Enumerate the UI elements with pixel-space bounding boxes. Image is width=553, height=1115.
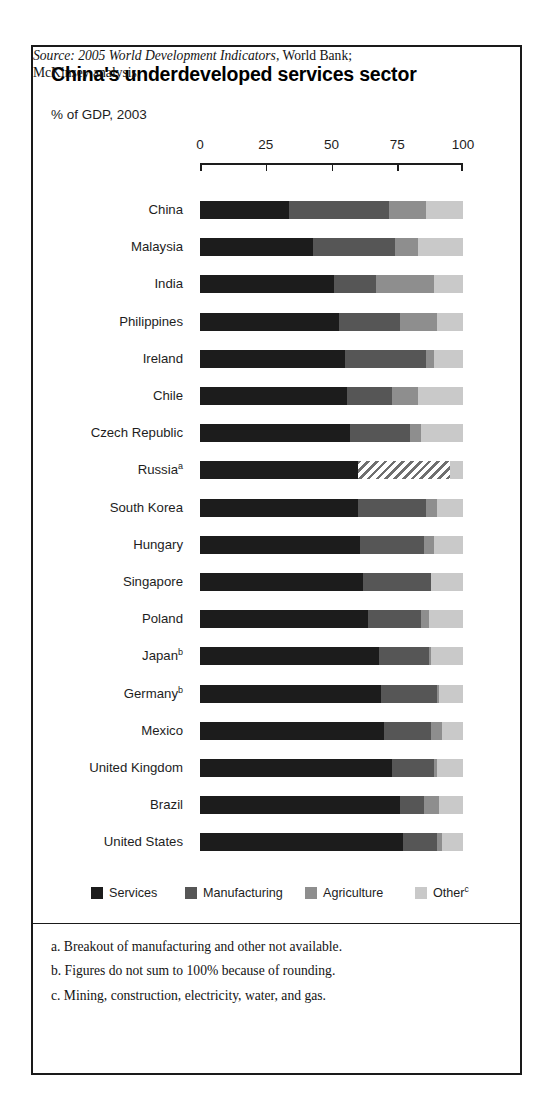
bar-row: Malaysia — [33, 236, 520, 258]
bar-segment-manufacturing — [358, 499, 426, 517]
bar-row-label-russia: Russiaa — [33, 459, 183, 481]
legend-swatch-agriculture — [305, 887, 317, 899]
bar-row: Russiaa — [33, 459, 520, 481]
bar-segment-agriculture — [424, 796, 440, 814]
legend-label-other: Otherc — [433, 885, 469, 901]
bar-segment-other — [434, 536, 463, 554]
bar-row: Brazil — [33, 794, 520, 816]
stacked-bar — [200, 573, 463, 591]
bar-row: South Korea — [33, 497, 520, 519]
bar-row: United Kingdom — [33, 757, 520, 779]
bar-row-label-china: China — [33, 199, 183, 221]
stacked-bar — [200, 833, 463, 851]
x-axis-tick-25 — [266, 163, 268, 171]
x-axis-tick-labels: 0255075100 — [200, 137, 463, 155]
stacked-bar — [200, 387, 463, 405]
source-label: Source: 2005 World Development Indicator… — [33, 48, 276, 63]
bar-row: Ireland — [33, 348, 520, 370]
bar-segment-other — [421, 424, 463, 442]
x-axis-tick-label-75: 75 — [390, 137, 405, 152]
stacked-bar — [200, 201, 463, 219]
bar-row-label-ireland: Ireland — [33, 348, 183, 370]
bar-row-label-japan: Japanb — [33, 645, 183, 667]
bar-row: Poland — [33, 608, 520, 630]
bar-segment-manufacturing — [368, 610, 421, 628]
bar-segment-agriculture — [400, 313, 437, 331]
bar-row-label-hungary: Hungary — [33, 534, 183, 556]
legend-swatch-other — [415, 887, 427, 899]
stacked-bar — [200, 461, 463, 479]
bar-segment-manufacturing — [313, 238, 395, 256]
bar-segment-services — [200, 313, 339, 331]
bar-segment-other — [426, 201, 463, 219]
bar-segment-services — [200, 833, 403, 851]
bar-segment-agriculture — [431, 722, 442, 740]
bar-row-label-malaysia: Malaysia — [33, 236, 183, 258]
bar-segment-manufacturing — [289, 201, 389, 219]
bar-segment-manufacturing — [384, 722, 431, 740]
source-note: Source: 2005 World Development Indicator… — [33, 47, 483, 81]
bar-segment-manufacturing — [339, 313, 399, 331]
bar-row-label-mexico: Mexico — [33, 720, 183, 742]
bar-row: Philippines — [33, 311, 520, 333]
bar-row: Singapore — [33, 571, 520, 593]
bar-segment-services — [200, 647, 379, 665]
legend-swatch-services — [91, 887, 103, 899]
bar-row-label-singapore: Singapore — [33, 571, 183, 593]
legend-label-manufacturing: Manufacturing — [203, 885, 283, 901]
bar-segment-services — [200, 424, 350, 442]
x-axis-tick-50 — [332, 163, 334, 171]
footnote-2: b. Figures do not sum to 100% because of… — [51, 963, 501, 979]
bar-segment-manufacturing — [392, 759, 434, 777]
bar-row: China — [33, 199, 520, 221]
bar-row: India — [33, 273, 520, 295]
bar-segment-manufacturing — [360, 536, 423, 554]
footnote-marker-b: b — [178, 684, 183, 694]
footnote-marker-c: c — [465, 883, 469, 893]
footnote-1: a. Breakout of manufacturing and other n… — [51, 939, 501, 955]
bar-segment-agriculture — [392, 387, 418, 405]
stacked-bar — [200, 685, 463, 703]
bar-row: Japanb — [33, 645, 520, 667]
bar-segment-other — [439, 796, 463, 814]
source-line2: McKinsey analysis. — [33, 65, 140, 80]
stacked-bar — [200, 722, 463, 740]
chart-legend: ServicesManufacturingAgricultureOtherc — [33, 885, 520, 901]
bar-segment-other — [439, 685, 463, 703]
footnote-divider — [33, 923, 520, 925]
bar-segment-services — [200, 722, 384, 740]
source-rest: , World Bank; — [276, 48, 352, 63]
stacked-bar — [200, 238, 463, 256]
stacked-bar — [200, 499, 463, 517]
bar-segment-services — [200, 201, 289, 219]
chart-plot-area: 0255075100 ChinaMalaysiaIndiaPhilippines… — [33, 47, 520, 1073]
bar-segment-manufacturing — [334, 275, 376, 293]
stacked-bar — [200, 350, 463, 368]
bar-segment-manufacturing — [347, 387, 392, 405]
bar-row-label-germany: Germanyb — [33, 683, 183, 705]
stacked-bar — [200, 796, 463, 814]
bar-row-label-poland: Poland — [33, 608, 183, 630]
bar-row-label-united-states: United States — [33, 831, 183, 853]
bar-row-label-brazil: Brazil — [33, 794, 183, 816]
bar-segment-services — [200, 499, 358, 517]
bar-row: Czech Republic — [33, 422, 520, 444]
bar-segment-other — [442, 833, 463, 851]
bar-segment-agriculture — [421, 610, 429, 628]
stacked-bar — [200, 610, 463, 628]
bar-segment-services — [200, 685, 381, 703]
bar-row: Germanyb — [33, 683, 520, 705]
bar-segment-services — [200, 350, 345, 368]
footnote-marker-b: b — [178, 647, 183, 657]
bar-row-label-india: India — [33, 273, 183, 295]
x-axis-tick-label-50: 50 — [324, 137, 339, 152]
bar-segment-services — [200, 275, 334, 293]
bar-segment-manufacturing — [403, 833, 437, 851]
bar-segment-services — [200, 573, 363, 591]
bar-segment-other — [450, 461, 463, 479]
bar-segment-agriculture — [395, 238, 419, 256]
footnote-marker-a: a — [178, 461, 183, 471]
bar-segment-other — [429, 610, 463, 628]
bar-segment-manufacturing — [400, 796, 424, 814]
bar-segment-other — [437, 759, 463, 777]
